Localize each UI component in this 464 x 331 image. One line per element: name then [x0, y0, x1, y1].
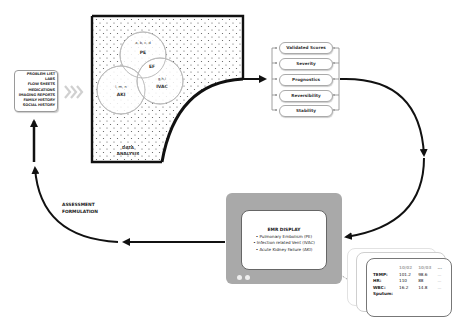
monitor-button-icon: [245, 275, 250, 280]
venn-aki-vars: l, m, n: [109, 85, 133, 89]
venn-ivac-vars: g,h,i: [150, 77, 174, 81]
emr-display-item: • Acute Kidney Failure (AKI): [242, 247, 326, 254]
criteria-reversibility: Reversibility: [279, 90, 333, 102]
arrow-criteria-to-display: [340, 79, 424, 155]
vitals-card: 10/02 10/03 ... TEMP: 101.2 98.6 ... HR:…: [366, 258, 452, 317]
data-analysis-label-line2: ANALYSIS: [113, 151, 143, 157]
vitals-value: [415, 291, 434, 298]
assessment-label-line2: FORMULATION: [62, 209, 98, 216]
vitals-table: 10/02 10/03 ... TEMP: 101.2 98.6 ... HR:…: [371, 265, 445, 298]
data-analysis-label: DATA ANALYSIS: [113, 145, 143, 157]
venn-ef-label: EF: [145, 64, 159, 69]
emr-display-screen: EMR DISPLAY • Pulmonary Embolism (PE) • …: [241, 210, 327, 270]
vitals-row-label: Sputum:: [371, 291, 396, 298]
venn-pe-label: PE: [131, 50, 155, 55]
clinical-sources-box: PROBLEM LIST LABS FLOW SHEETS MEDICATION…: [14, 70, 58, 112]
emr-display-item: • Infection related Vent (IVAC): [242, 240, 326, 247]
vitals-row-sputum: Sputum:: [371, 291, 445, 298]
criteria-validated-scores: Validated Scores: [279, 42, 333, 54]
assessment-label-line1: ASSESSMENT: [62, 202, 98, 209]
venn-aki-label: AKI: [109, 92, 133, 97]
venn-pe-vars: a, b, c, d: [131, 41, 155, 45]
source-item: SOCIAL HISTORY: [17, 103, 55, 108]
criteria-prognostics: Prognostics: [279, 74, 333, 86]
vitals-value: [434, 291, 445, 298]
criteria-stability: Stability: [279, 105, 333, 117]
triple-chevron-right-icon: [65, 86, 82, 98]
venn-ivac-label: IVAC: [150, 84, 174, 89]
vitals-value: [396, 291, 415, 298]
criteria-severity: Severity: [279, 58, 333, 70]
assessment-formulation-label: ASSESSMENT FORMULATION: [62, 202, 98, 215]
monitor-button-icon: [237, 275, 242, 280]
